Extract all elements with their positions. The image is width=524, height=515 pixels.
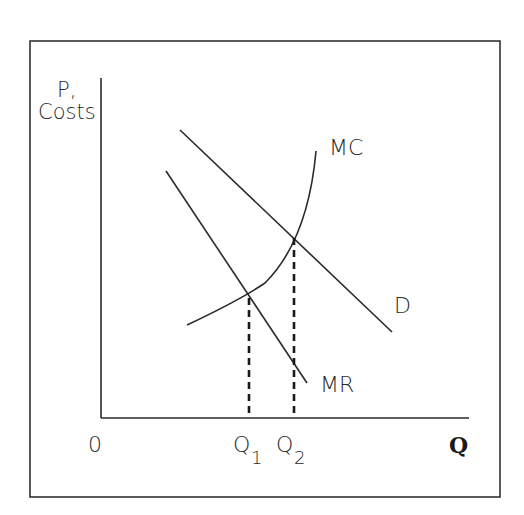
y-axis-label-line1: P, xyxy=(57,78,76,102)
diagram-canvas: P, Costs D MR MC 0 Q 1 Q 2 Q xyxy=(0,0,524,515)
marginal-revenue-curve xyxy=(166,171,307,383)
q1-label-subscript: 1 xyxy=(251,447,262,468)
q1-label: Q 1 xyxy=(233,432,262,468)
y-axis-label-line2: Costs xyxy=(38,100,96,124)
q2-label: Q 2 xyxy=(276,432,305,468)
demand-label: D xyxy=(394,293,411,318)
x-axis-label: Q xyxy=(449,432,468,458)
marginal-cost-label: MC xyxy=(329,135,363,160)
q2-label-main: Q xyxy=(276,432,293,457)
q1-label-main: Q xyxy=(233,432,250,457)
marginal-revenue-label: MR xyxy=(320,372,354,397)
q2-label-subscript: 2 xyxy=(294,447,305,468)
origin-label: 0 xyxy=(88,432,102,457)
demand-curve xyxy=(180,130,392,332)
